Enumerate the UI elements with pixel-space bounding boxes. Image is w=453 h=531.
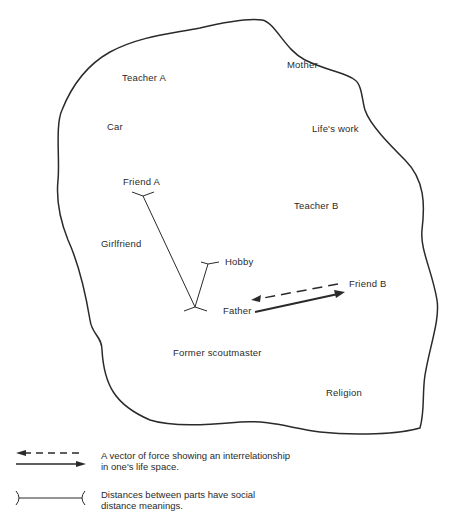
distance-hobby-father: [195, 262, 219, 307]
label-girlfriend: Girlfriend: [101, 238, 142, 249]
label-car: Car: [107, 121, 123, 132]
label-teacher-b: Teacher B: [294, 200, 339, 211]
life-space-boundary: [57, 19, 437, 434]
legend-vector-text: A vector of force showing an interrelati…: [101, 450, 341, 472]
label-lifes-work: Life's work: [312, 123, 359, 134]
vector-dashed-friend-b-to-father: [251, 284, 338, 302]
legend-distance-text: Distances between parts have social dist…: [101, 489, 341, 511]
label-mother: Mother: [287, 59, 318, 70]
legend-distance-line2: distance meanings.: [101, 500, 341, 511]
label-former-scoutmaster: Former scoutmaster: [173, 347, 262, 358]
label-religion: Religion: [326, 387, 362, 398]
legend-vector-line2: in one's life space.: [101, 461, 341, 472]
vector-solid-father-to-friend-b: [255, 290, 345, 312]
distance-friend-a-father: [132, 192, 207, 311]
label-friend-a: Friend A: [123, 176, 160, 187]
legend-vector-symbol: [16, 450, 86, 467]
legend-distance-line1: Distances between parts have social: [101, 489, 341, 500]
label-hobby: Hobby: [225, 256, 253, 267]
label-friend-b: Friend B: [349, 278, 387, 289]
label-father: Father: [223, 305, 252, 316]
legend-vector-line1: A vector of force showing an interrelati…: [101, 450, 341, 461]
legend-distance-symbol: [16, 491, 85, 505]
label-teacher-a: Teacher A: [122, 72, 166, 83]
